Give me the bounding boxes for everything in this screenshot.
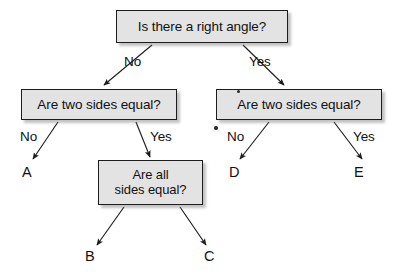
node-are-all-sides-equal[interactable]: Are all sides equal? (98, 160, 203, 205)
edge-label-left-no: No (20, 129, 37, 144)
edge-right-to-d (240, 122, 269, 159)
edge-left-to-bottom (136, 122, 150, 157)
edge-label-right-no: No (227, 129, 244, 144)
edge-label-left-yes: Yes (150, 129, 172, 144)
node-right-are-two-sides-equal[interactable]: Are two sides equal? (216, 89, 382, 120)
scan-artifact-speck-top (237, 90, 240, 93)
terminal-b: B (85, 248, 95, 264)
edge-label-right-yes: Yes (353, 129, 375, 144)
edge-label-root-no: No (124, 54, 141, 69)
terminal-d: D (229, 164, 239, 180)
edge-bottom-to-b (97, 207, 124, 245)
terminal-a: A (22, 164, 32, 180)
terminal-c: C (204, 248, 214, 264)
terminal-e: E (354, 164, 364, 180)
node-is-there-a-right-angle[interactable]: Is there a right angle? (116, 10, 288, 43)
scan-artifact-speck-bottom (214, 126, 218, 130)
decision-tree-diagram: Is there a right angle? Are two sides eq… (0, 0, 398, 276)
edge-bottom-to-c (180, 207, 206, 245)
node-left-are-two-sides-equal[interactable]: Are two sides equal? (21, 89, 177, 120)
edge-label-root-yes: Yes (249, 54, 271, 69)
